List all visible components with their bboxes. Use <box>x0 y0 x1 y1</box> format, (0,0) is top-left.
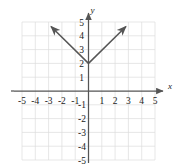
y-tick-label--4: -4 <box>78 142 86 152</box>
graph-figure: -5 -4 -3 -2 -1 1 2 3 4 5 5 4 3 2 1 -1 -2… <box>0 0 179 168</box>
y-tick-label-4: 4 <box>79 31 84 41</box>
x-tick-label-4: 4 <box>139 96 144 106</box>
y-axis-label: y <box>90 5 95 15</box>
x-axis-label: x <box>167 81 172 91</box>
x-tick-label--3: -3 <box>45 96 53 106</box>
x-tick-label--5: -5 <box>18 96 26 106</box>
x-tick-label-1: 1 <box>99 96 104 106</box>
curve-right-branch <box>89 27 127 64</box>
y-tick-label--1: -1 <box>78 100 86 110</box>
x-tick-label--4: -4 <box>31 96 39 106</box>
y-tick-label-5: 5 <box>79 18 84 28</box>
y-tick-label--3: -3 <box>78 128 86 138</box>
coordinate-plane-svg: -5 -4 -3 -2 -1 1 2 3 4 5 5 4 3 2 1 -1 -2… <box>0 0 179 168</box>
y-tick-label-3: 3 <box>79 45 84 55</box>
x-tick-label-3: 3 <box>126 96 131 106</box>
x-tick-label-5: 5 <box>153 96 158 106</box>
y-tick-label-2: 2 <box>79 59 84 69</box>
x-tick-label-2: 2 <box>113 96 118 106</box>
y-tick-label-1: 1 <box>79 73 84 83</box>
y-tick-label--2: -2 <box>78 114 86 124</box>
x-tick-label--2: -2 <box>58 96 66 106</box>
y-tick-label--5: -5 <box>78 156 86 166</box>
